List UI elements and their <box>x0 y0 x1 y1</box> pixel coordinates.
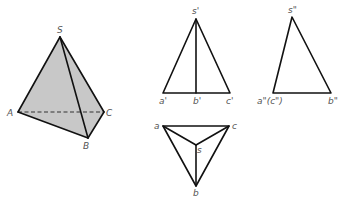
label-s-double-prime: s" <box>288 5 297 15</box>
perspective-view: S A B C <box>6 25 113 151</box>
label-c-prime: c' <box>226 96 233 106</box>
top-view: a c s b <box>154 121 237 198</box>
label-b: b <box>193 188 199 198</box>
front-view: s' a' b' c' <box>159 6 233 106</box>
label-c: c <box>232 121 237 131</box>
label-S: S <box>57 25 63 35</box>
label-C: C <box>106 108 113 118</box>
label-a-prime: a' <box>159 96 167 106</box>
label-a-c-double-prime: a"(c") <box>257 96 283 106</box>
label-s: s <box>197 145 202 155</box>
label-s-prime: s' <box>192 6 199 16</box>
label-b-prime: b' <box>193 96 201 106</box>
side-view: s" a"(c") b" <box>257 5 338 106</box>
side-outline <box>273 17 331 93</box>
label-A: A <box>6 108 13 118</box>
tetrahedron-projection-diagram: S A B C s' a' b' c' s" a"(c") b" a c s b <box>0 0 345 202</box>
label-B: B <box>83 141 89 151</box>
label-a: a <box>154 121 160 131</box>
label-b-double-prime: b" <box>328 96 338 106</box>
